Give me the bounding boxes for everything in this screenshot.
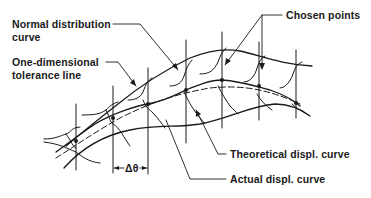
leader-normal-distribution	[113, 24, 178, 70]
label-chosen-points: Chosen points	[286, 9, 360, 21]
label-theoretical-curve: Theoretical displ. curve	[230, 148, 350, 160]
label-delta-theta: Δθ	[125, 162, 138, 174]
label-tolerance-line: One-dimensional	[12, 56, 99, 68]
label-actual-curve: Actual displ. curve	[230, 173, 325, 185]
leader-actual-curve	[166, 120, 226, 179]
label-normal-distribution: Normal distribution	[12, 18, 111, 30]
actual-displacement-curve	[56, 80, 300, 152]
label-tolerance-line-cont: tolerance line	[12, 69, 81, 81]
label-normal-distribution-cont: curve	[12, 31, 41, 43]
